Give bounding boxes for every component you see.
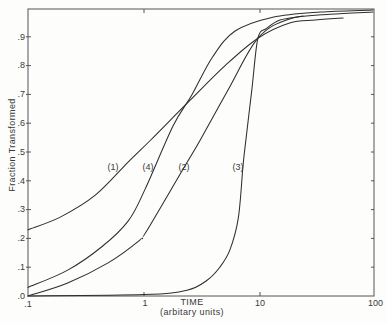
x-tick-label: .1 <box>24 299 32 309</box>
y-tick-label: .1 <box>17 262 25 272</box>
x-tick-label: 10 <box>255 298 265 308</box>
chart-figure: .0 .1 .2 .3 .4 .5 .6 .7 .8 .9 .1 1 10 10… <box>0 0 387 323</box>
curve-label-4: (4) <box>143 162 154 172</box>
y-tick-label: .8 <box>17 60 25 70</box>
y-tick-label: .3 <box>17 204 25 214</box>
curve-4-line <box>28 10 373 287</box>
curve-2-line <box>28 12 373 296</box>
curve-label-3: (3) <box>233 162 244 172</box>
y-tick-label: .2 <box>17 233 25 243</box>
curve-label-2: (2) <box>179 162 190 172</box>
y-tick-label: .4 <box>17 176 25 186</box>
x-axis-title: TIME <box>180 297 203 307</box>
curve-1-line <box>28 18 343 230</box>
axis-ticks <box>26 9 374 296</box>
curve-label-1: (1) <box>108 162 119 172</box>
x-axis-subtitle: (arbitary units) <box>160 307 224 317</box>
curves <box>28 10 373 296</box>
y-tick-labels: .0 .1 .2 .3 .4 .5 .6 .7 .8 .9 <box>17 32 25 301</box>
y-tick-label: .5 <box>17 147 25 157</box>
y-axis-title: Fraction Transformed <box>7 98 17 192</box>
x-tick-label: 1 <box>142 298 147 308</box>
x-tick-label: 100 <box>368 298 383 308</box>
curve-3-line <box>28 16 303 296</box>
y-tick-label: .7 <box>17 89 25 99</box>
y-tick-label: .6 <box>17 118 25 128</box>
y-tick-label: .9 <box>17 32 25 42</box>
plot-frame <box>28 9 374 296</box>
chart-svg: .0 .1 .2 .3 .4 .5 .6 .7 .8 .9 .1 1 10 10… <box>0 0 387 323</box>
